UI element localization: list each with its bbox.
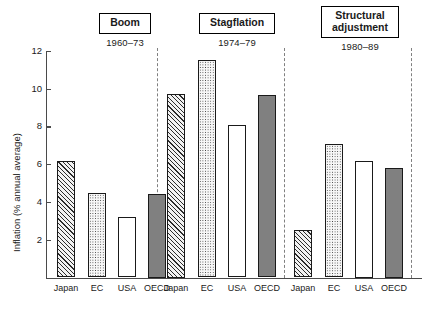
category-label-structural-oecd: OECD bbox=[374, 283, 414, 293]
y-tick-label-2: 2 bbox=[24, 235, 42, 245]
y-tick-10 bbox=[46, 89, 51, 90]
y-axis-title: Inflation (% annual average) bbox=[12, 133, 22, 252]
period-years-2: 1974–79 bbox=[182, 37, 292, 48]
y-tick-label-4: 4 bbox=[24, 197, 42, 207]
y-tick-label-12: 12 bbox=[24, 46, 42, 56]
y-tick-label-6: 6 bbox=[24, 159, 42, 169]
y-tick-8 bbox=[46, 126, 51, 127]
period-title-3: Structural bbox=[335, 9, 385, 21]
group-separator-3 bbox=[411, 48, 412, 278]
bar-structural-oecd bbox=[385, 168, 403, 278]
period-header-stagflation: Stagflation 1974–79 bbox=[182, 12, 292, 48]
y-tick-label-8: 8 bbox=[24, 121, 42, 131]
period-title-2: Stagflation bbox=[210, 16, 264, 28]
bar-structural-usa bbox=[355, 161, 373, 278]
period-title-1: Boom bbox=[110, 16, 140, 28]
category-label-stagflation-oecd: OECD bbox=[247, 283, 287, 293]
period-header-structural-adjustment: Structural adjustment 1980–89 bbox=[300, 6, 420, 52]
chart-figure: Boom 1960–73 Stagflation 1974–79 Structu… bbox=[0, 0, 430, 315]
y-tick-12 bbox=[46, 51, 51, 52]
bar-boom-oecd bbox=[148, 194, 166, 278]
period-years-1: 1960–73 bbox=[70, 37, 180, 48]
bar-stagflation-usa bbox=[228, 125, 246, 278]
period-years-3: 1980–89 bbox=[300, 41, 420, 52]
bar-boom-ec bbox=[88, 193, 106, 278]
y-tick-6 bbox=[46, 164, 51, 165]
period-header-boom: Boom 1960–73 bbox=[70, 12, 180, 48]
bar-structural-ec bbox=[325, 144, 343, 277]
bar-stagflation-oecd bbox=[258, 95, 276, 277]
bar-boom-usa bbox=[118, 217, 136, 277]
period-title-box-2: Stagflation bbox=[199, 13, 275, 34]
y-tick-label-10: 10 bbox=[24, 84, 42, 94]
bar-stagflation-japan bbox=[167, 94, 185, 278]
y-tick-2 bbox=[46, 240, 51, 241]
group-separator-2 bbox=[284, 48, 285, 278]
period-title-3-line2: adjustment bbox=[332, 21, 388, 33]
bar-boom-japan bbox=[57, 161, 75, 277]
bar-stagflation-ec bbox=[198, 60, 216, 277]
period-title-box-1: Boom bbox=[99, 13, 151, 34]
period-title-box-3: Structural adjustment bbox=[321, 6, 399, 38]
x-axis-line bbox=[46, 278, 422, 279]
bar-structural-japan bbox=[294, 230, 312, 277]
y-tick-4 bbox=[46, 202, 51, 203]
